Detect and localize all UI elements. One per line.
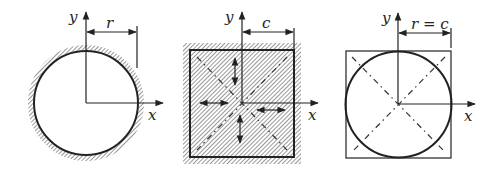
- r-label: r: [106, 14, 114, 32]
- x-label: x: [308, 106, 317, 124]
- y-label: y: [68, 8, 78, 26]
- y-label: y: [381, 9, 391, 27]
- y-label: y: [224, 8, 234, 26]
- r-equals-c-label: r = c: [411, 15, 449, 33]
- x-label: x: [464, 107, 473, 125]
- panel-inscribed: y x r = c: [346, 9, 476, 158]
- panel-square: y x c: [183, 8, 318, 164]
- c-label: c: [262, 14, 271, 32]
- x-label: x: [148, 106, 157, 124]
- panel-circle: y x r: [31, 8, 164, 159]
- diagram-canvas: y x r y x c y x r = c: [0, 0, 500, 178]
- figure: y x r y x c y x r = c: [0, 0, 500, 178]
